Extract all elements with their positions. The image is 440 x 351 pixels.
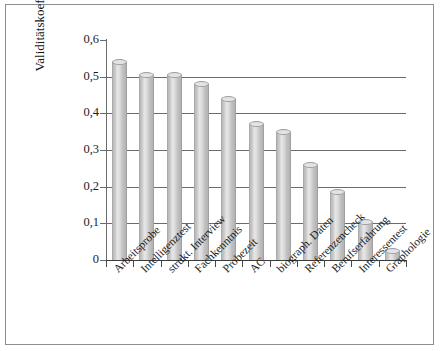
x-tick-mark [242,261,243,267]
y-tick-label-wrap: 0,5 [54,70,99,82]
x-tick-mark [106,261,107,267]
bar-cap [139,72,154,78]
x-tick-mark [133,261,134,267]
bar-cap [330,189,345,195]
y-tick-label: 0,1 [59,216,99,229]
chart-page: Validitätskoeffizient 00,10,20,30,40,50,… [0,0,440,351]
x-tick-mark [379,261,380,267]
y-tick-label-wrap: 0,6 [54,33,99,45]
x-tick-mark [351,261,352,267]
bar-cap [194,81,209,87]
bar-cap [249,121,264,127]
x-tick-mark [215,261,216,267]
y-tick-label-wrap: 0,3 [54,143,99,155]
bar-cap [276,129,291,135]
bar-cap [167,72,182,78]
bar-cap [221,96,236,102]
bar [276,132,291,260]
x-tick-mark [297,261,298,267]
y-tick-label-wrap: 0,2 [54,180,99,192]
y-tick-label-wrap: 0 [54,253,99,265]
bar-cap [112,59,127,65]
y-tick-label: 0 [59,253,99,266]
y-axis-title: Validitätskoeffizient [32,0,48,99]
y-tick-label: 0,5 [59,70,99,83]
bar-cap [303,162,318,168]
y-tick-label: 0,4 [59,106,99,119]
x-tick-mark [188,261,189,267]
x-tick-mark [270,261,271,267]
y-tick-label-wrap: 0,4 [54,106,99,118]
y-tick-label: 0,2 [59,180,99,193]
bar [112,62,127,260]
x-tick-mark [406,261,407,267]
x-tick-mark [161,261,162,267]
y-tick-label-wrap: 0,1 [54,216,99,228]
image-frame: Validitätskoeffizient 00,10,20,30,40,50,… [5,4,434,345]
y-tick-label: 0,6 [59,33,99,46]
y-tick-label: 0,3 [59,143,99,156]
